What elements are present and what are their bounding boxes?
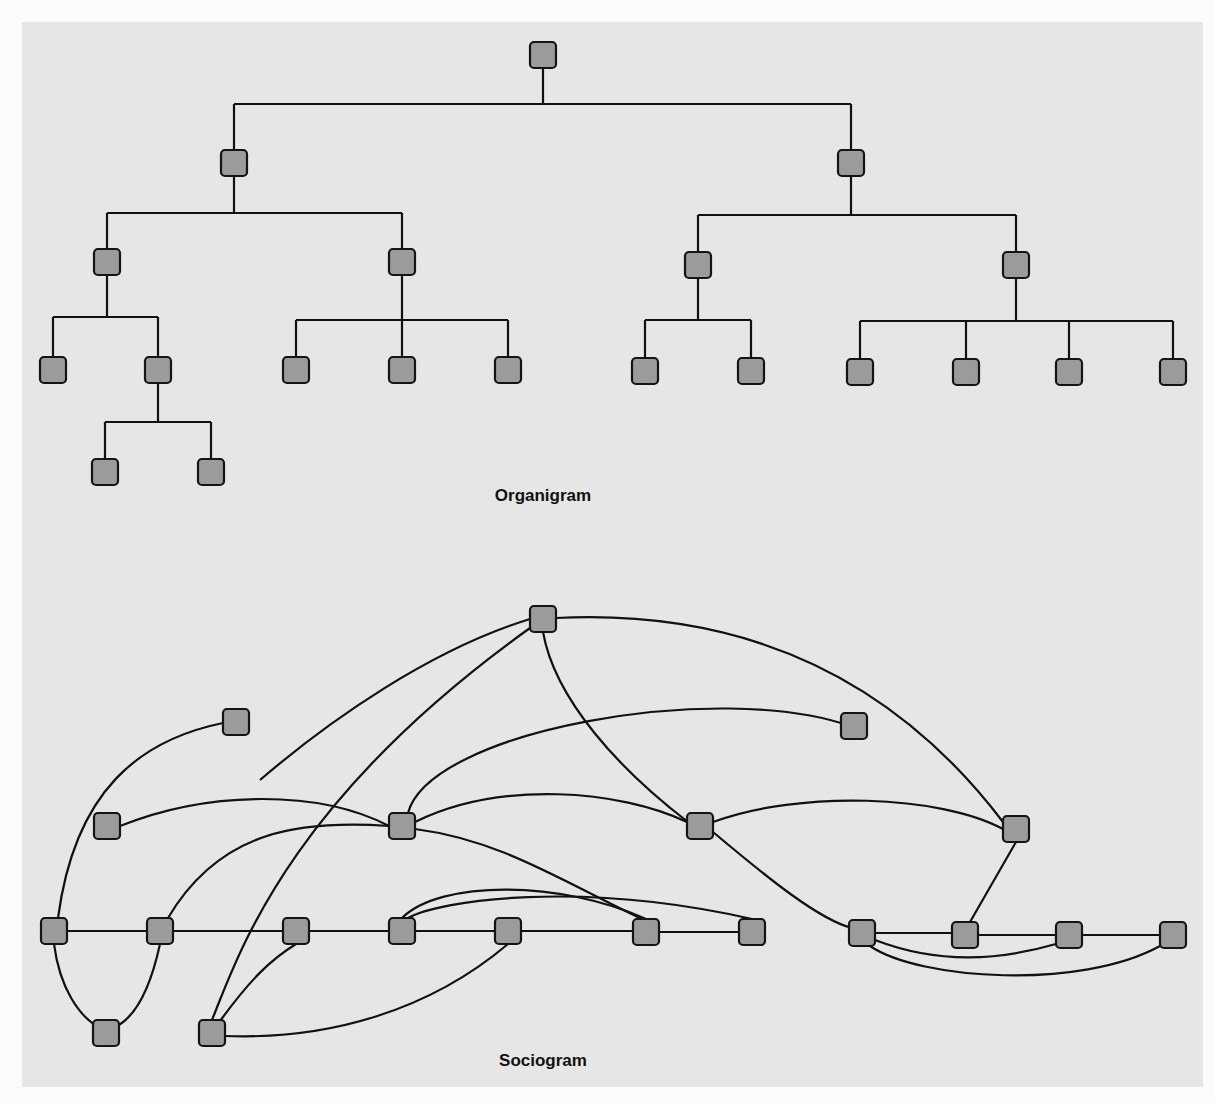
organigram-node-a (221, 150, 247, 176)
organigram-caption: Organigram (393, 486, 693, 506)
sociogram-edge (220, 944, 296, 1021)
sociogram-node-L (495, 918, 521, 944)
sociogram-node-S (93, 1020, 119, 1046)
organigram-node-b1b (738, 358, 764, 384)
organigram-node-a1 (94, 249, 120, 275)
organigram-node-b2 (1003, 252, 1029, 278)
network-diagrams (0, 0, 1215, 1103)
organigram-edge (53, 275, 158, 357)
organigram-node-a1b (145, 357, 171, 383)
organigram-node-b1 (685, 252, 711, 278)
organigram-node-b2a (847, 359, 873, 385)
sociogram-edge (54, 944, 95, 1025)
sociogram-nodes (41, 606, 1186, 1046)
organigram-edge (698, 176, 1016, 252)
sociogram-node-D (94, 813, 120, 839)
organigram-edge (105, 383, 211, 459)
sociogram-node-M (633, 919, 659, 945)
organigram-node-a2c (495, 357, 521, 383)
sociogram-edge (120, 799, 389, 826)
sociogram-node-G (1003, 816, 1029, 842)
organigram-node-b (838, 150, 864, 176)
sociogram-caption: Sociogram (393, 1051, 693, 1071)
sociogram-edge (119, 944, 160, 1025)
sociogram-node-A (530, 606, 556, 632)
organigram-edge (860, 278, 1173, 359)
sociogram-node-J (283, 918, 309, 944)
sociogram-node-H (41, 918, 67, 944)
sociogram-edges (54, 617, 1160, 1036)
sociogram-edge (58, 723, 223, 918)
organigram-node-b1a (632, 358, 658, 384)
organigram-node-root (530, 42, 556, 68)
organigram-edge (107, 176, 402, 249)
organigram-edge (296, 275, 508, 357)
sociogram-edge (415, 794, 687, 822)
organigram-nodes (40, 42, 1186, 485)
sociogram-node-O (849, 920, 875, 946)
organigram-node-b2b (953, 359, 979, 385)
organigram-node-b2c (1056, 359, 1082, 385)
sociogram-node-N (739, 919, 765, 945)
organigram-edge (645, 278, 751, 358)
sociogram-node-C (841, 713, 867, 739)
sociogram-node-K (389, 918, 415, 944)
sociogram-edge (970, 842, 1016, 922)
organigram-node-a1b2 (198, 459, 224, 485)
sociogram-edge (408, 897, 752, 919)
sociogram-node-R (1160, 922, 1186, 948)
organigram-edge (234, 68, 851, 150)
sociogram-edge (225, 944, 508, 1036)
sociogram-edge (875, 933, 1160, 935)
sociogram-edge (168, 825, 389, 918)
sociogram-node-T (199, 1020, 225, 1046)
sociogram-node-F (687, 813, 713, 839)
organigram-node-a1b1 (92, 459, 118, 485)
sociogram-edge (402, 890, 646, 919)
organigram-node-a2b (389, 357, 415, 383)
sociogram-edge (713, 832, 852, 928)
sociogram-node-B (223, 709, 249, 735)
sociogram-edge (713, 801, 1003, 829)
sociogram-edge (556, 617, 1003, 822)
organigram-node-b2d (1160, 359, 1186, 385)
sociogram-node-E (389, 813, 415, 839)
organigram-node-a2a (283, 357, 309, 383)
organigram-node-a1a (40, 357, 66, 383)
sociogram-node-P (952, 922, 978, 948)
sociogram-node-I (147, 918, 173, 944)
organigram-node-a2 (389, 249, 415, 275)
sociogram-edge (870, 946, 1160, 975)
sociogram-node-Q (1056, 922, 1082, 948)
sociogram-edge (408, 708, 850, 813)
sociogram-edge (260, 619, 530, 780)
